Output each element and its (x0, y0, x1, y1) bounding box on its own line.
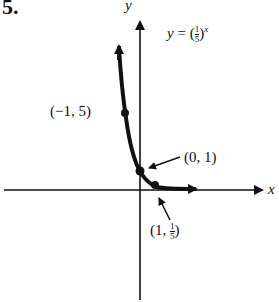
graph-canvas (0, 0, 279, 302)
point-label-1: (1, 15) (150, 222, 180, 241)
point-label-0: (0, 1) (184, 149, 217, 166)
leader-arrow-0-1 (149, 157, 180, 168)
point-1-fifth (151, 181, 159, 189)
y-axis-label: y (125, 0, 132, 14)
x-axis-label: x (268, 181, 275, 198)
equation-label: y = (15)x (167, 24, 208, 44)
point-0-1 (136, 167, 145, 176)
point-neg1-5 (121, 109, 129, 117)
point-label-neg1: (−1, 5) (50, 103, 91, 120)
leader-arrow-1-fifth (159, 198, 170, 220)
exponential-curve (119, 48, 196, 189)
